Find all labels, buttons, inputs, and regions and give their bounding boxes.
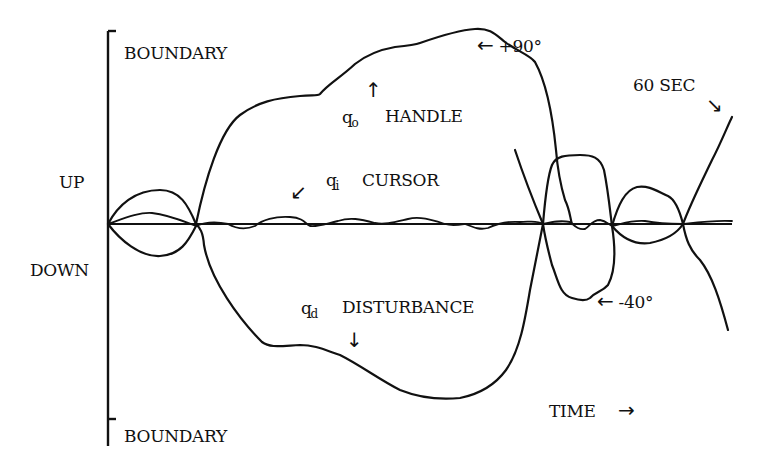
top-boundary-label: BOUNDARY <box>124 43 227 63</box>
cursor-symbol: qi <box>326 170 339 193</box>
handle-label: HANDLE <box>385 106 463 126</box>
handle-final-trace <box>683 117 732 224</box>
left-arrow-icon: ← <box>597 289 613 313</box>
disturbance-final-trace <box>683 224 728 330</box>
cursor-symbol-subscript: i <box>336 179 340 193</box>
handle-symbol-q: q <box>342 107 353 127</box>
min-angle-annotation: ← -40° <box>597 289 653 313</box>
max-angle-value: +90° <box>499 36 542 56</box>
disturbance-symbol: qd <box>301 298 318 321</box>
cursor-label: CURSOR <box>362 170 439 190</box>
disturbance-initial-lobe <box>108 224 196 256</box>
end-time-label: 60 SEC <box>633 75 695 95</box>
diagram-canvas <box>0 0 758 469</box>
down-label: DOWN <box>30 260 89 280</box>
cursor-arrow-icon: ↙ <box>290 180 306 204</box>
bottom-boundary-label: BOUNDARY <box>124 426 227 446</box>
max-angle-annotation: ← +90° <box>477 33 542 57</box>
min-angle-value: -40° <box>619 292 654 312</box>
cursor-symbol-q: q <box>326 170 337 190</box>
handle-symbol-subscript: o <box>352 116 359 130</box>
handle-symbol: qo <box>342 107 359 130</box>
vertical-axis <box>108 31 116 446</box>
disturbance-symbol-subscript: d <box>311 307 318 321</box>
left-arrow-icon: ← <box>477 33 493 57</box>
early-crossing-up <box>515 150 543 224</box>
cursor-mid-lobe <box>612 187 683 244</box>
disturbance-label: DISTURBANCE <box>342 297 474 317</box>
handle-trace <box>196 29 572 224</box>
disturbance-symbol-q: q <box>301 298 312 318</box>
time-axis-label: TIME <box>549 401 596 421</box>
time-right-arrow-icon: → <box>618 398 634 422</box>
up-label: UP <box>59 172 84 192</box>
handle-up-arrow-icon: ↑ <box>365 78 381 102</box>
end-time-arrow-icon: ↘ <box>706 93 722 117</box>
disturbance-down-arrow-icon: ↓ <box>346 328 362 352</box>
